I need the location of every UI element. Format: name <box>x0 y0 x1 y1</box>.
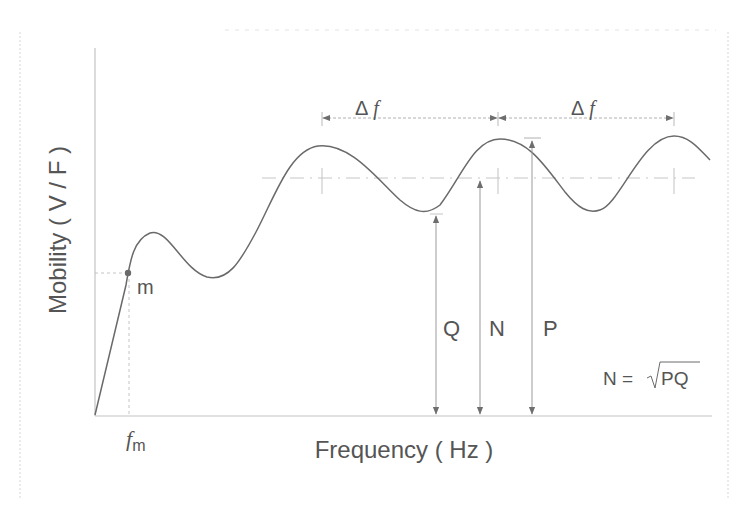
label-p: P <box>543 316 558 341</box>
label-n: N <box>489 316 505 341</box>
formula-radicand: PQ <box>661 368 688 389</box>
x-axis-label: Frequency ( Hz ) <box>315 436 494 463</box>
delta-var: f <box>373 97 381 120</box>
point-m <box>125 270 131 276</box>
mobility-diagram: Mobility ( V / F ) Frequency ( Hz ) m fm… <box>0 0 748 516</box>
delta-f-label-2: Δf <box>571 97 597 120</box>
fm-label: fm <box>126 426 145 454</box>
point-m-label: m <box>137 276 154 298</box>
delta-symbol: Δ <box>571 97 584 119</box>
formula: N = PQ <box>603 362 700 389</box>
fm-label-sub: m <box>132 437 145 454</box>
delta-symbol: Δ <box>355 97 368 119</box>
formula-lhs: N = <box>603 368 633 389</box>
y-axis-label: Mobility ( V / F ) <box>44 146 71 314</box>
delta-f-label-1: Δf <box>355 97 381 120</box>
delta-var: f <box>589 97 597 120</box>
label-q: Q <box>443 316 460 341</box>
